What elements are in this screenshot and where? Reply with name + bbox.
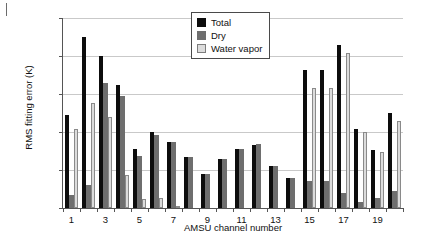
plot-area: 00.020.040.060.080.1 135791113151719 Tot… [63, 18, 403, 208]
bar-group [284, 18, 301, 208]
bar-group [318, 18, 335, 208]
bar-total [320, 70, 324, 208]
bar-total [286, 178, 290, 208]
bar-wv [74, 129, 78, 208]
x-tick-mark [114, 208, 115, 212]
x-tick-mark [165, 208, 166, 212]
x-tick-mark [97, 208, 98, 212]
bar-dry [375, 198, 379, 208]
bar-wv [91, 103, 95, 208]
legend-label-dry: Dry [211, 30, 226, 41]
x-tick-mark [250, 208, 251, 212]
x-tick-mark [335, 208, 336, 212]
bar-dry [188, 157, 192, 208]
bar-total [337, 45, 341, 208]
bar-group [63, 18, 80, 208]
bar-total [184, 157, 188, 208]
x-tick-mark [233, 208, 234, 212]
bar-dry [239, 149, 243, 208]
bar-wv [329, 88, 333, 208]
bar-wv [108, 117, 112, 208]
bar-dry [120, 96, 124, 208]
bar-total [235, 149, 239, 208]
x-tick-mark [131, 208, 132, 212]
bar-dry [273, 166, 277, 208]
bar-group [301, 18, 318, 208]
bar-dry [137, 156, 141, 208]
x-tick-mark [148, 208, 149, 212]
x-tick-mark [199, 208, 200, 212]
bar-total [303, 70, 307, 208]
bar-wv [380, 152, 384, 208]
bar-group [165, 18, 182, 208]
x-tick-mark [80, 208, 81, 212]
bar-dry [256, 144, 260, 208]
bar-dry [222, 159, 226, 208]
bar-total [354, 129, 358, 208]
x-tick-mark [284, 208, 285, 212]
chart-figure: RMS fitting error (K) 00.020.040.060.080… [0, 0, 434, 252]
bar-total [133, 149, 137, 208]
legend-label-total: Total [211, 17, 231, 28]
legend-swatch-dry [197, 31, 206, 40]
bar-total [218, 159, 222, 208]
bar-dry [307, 181, 311, 208]
legend-swatch-total [197, 18, 206, 27]
bar-wv [142, 199, 146, 209]
bar-total [99, 56, 103, 208]
bar-group [335, 18, 352, 208]
bar-dry [341, 193, 345, 208]
bar-group [131, 18, 148, 208]
bar-dry [324, 181, 328, 208]
legend: Total Dry Water vapor [191, 12, 270, 59]
x-tick-mark [301, 208, 302, 212]
bar-total [150, 132, 154, 208]
bar-total [65, 115, 69, 208]
bar-group [386, 18, 403, 208]
x-tick-mark [182, 208, 183, 212]
bar-wv [397, 121, 401, 208]
bar-wv [125, 175, 129, 208]
y-axis-title: RMS fitting error (K) [23, 28, 34, 188]
legend-swatch-water-vapor [197, 44, 206, 53]
bar-total [116, 85, 120, 209]
bar-group [352, 18, 369, 208]
legend-item-total: Total [197, 16, 262, 29]
bar-group [114, 18, 131, 208]
x-tick-mark [216, 208, 217, 212]
bar-total [82, 37, 86, 208]
bar-group [148, 18, 165, 208]
bar-dry [103, 83, 107, 208]
bar-dry [154, 135, 158, 208]
x-tick-mark [318, 208, 319, 212]
bar-total [201, 174, 205, 208]
bar-wv [312, 88, 316, 208]
bar-wv [346, 53, 350, 208]
bar-dry [290, 178, 294, 208]
legend-item-water-vapor: Water vapor [197, 42, 262, 55]
x-tick-mark [386, 208, 387, 212]
bar-dry [69, 195, 73, 208]
legend-item-dry: Dry [197, 29, 262, 42]
corner-tick-mark [6, 3, 7, 16]
bar-group [369, 18, 386, 208]
x-tick-mark [403, 208, 404, 212]
x-tick-mark [352, 208, 353, 212]
bar-dry [205, 174, 209, 208]
bar-group [80, 18, 97, 208]
x-axis-title: AMSU channel number [63, 222, 403, 233]
bar-total [252, 145, 256, 208]
x-tick-mark [267, 208, 268, 212]
bar-wv [159, 198, 163, 208]
bar-group [97, 18, 114, 208]
bar-total [167, 142, 171, 209]
bar-total [388, 113, 392, 208]
x-tick-mark [63, 208, 64, 212]
bar-wv [176, 206, 180, 208]
bar-dry [392, 191, 396, 208]
bar-wv [363, 132, 367, 208]
legend-label-water-vapor: Water vapor [211, 43, 262, 54]
bar-dry [86, 185, 90, 208]
bar-dry [171, 142, 175, 208]
x-tick-mark [369, 208, 370, 212]
